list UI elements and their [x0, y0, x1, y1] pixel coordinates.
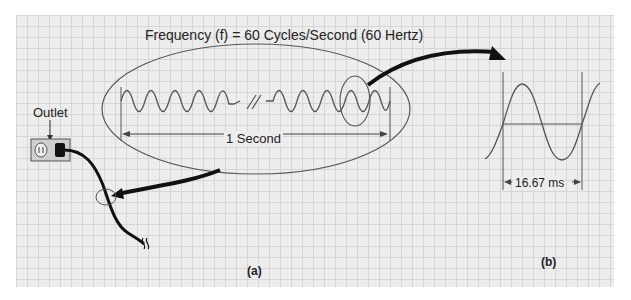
outlet-socket	[35, 143, 47, 157]
power-cord	[64, 150, 144, 244]
cord-break-icon	[142, 238, 149, 249]
outlet-label: Outlet	[33, 105, 68, 120]
frequency-title: Frequency (f) = 60 Cycles/Second (60 Her…	[145, 27, 423, 43]
sine-wave-left	[121, 91, 240, 112]
callout-arrow-to-b	[368, 51, 495, 85]
callout-arrow-to-cord	[118, 170, 220, 194]
break-mark-1	[247, 95, 256, 109]
period-arrowhead-right-icon	[574, 179, 581, 185]
panel-b-label: (b)	[541, 255, 556, 269]
ac-frequency-diagram: Frequency (f) = 60 Cycles/Second (60 Her…	[0, 0, 631, 300]
arrowhead-left-icon	[122, 131, 130, 137]
period-arrowhead-left-icon	[504, 179, 511, 185]
sine-wave-right	[266, 91, 390, 112]
single-cycle-sine-wave	[485, 83, 600, 160]
panel-a-label: (a)	[247, 264, 262, 278]
plug-icon	[55, 143, 65, 157]
break-mark-2	[252, 95, 261, 109]
one-second-label: 1 Second	[224, 131, 283, 146]
diagram-drawing	[0, 0, 631, 300]
zoom-ellipse	[102, 44, 410, 174]
arrowhead-right-icon	[380, 131, 388, 137]
arrowhead-cord-icon	[111, 188, 124, 199]
arrowhead-b-icon	[489, 46, 506, 60]
period-label: 16.67 ms	[514, 176, 565, 190]
